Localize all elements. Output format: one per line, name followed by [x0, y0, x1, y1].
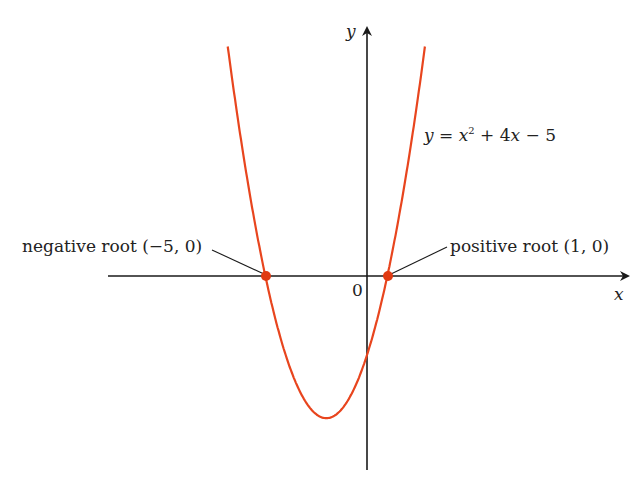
pos-root-point	[383, 271, 393, 281]
origin-label: 0	[352, 280, 363, 300]
equation-label: y = x2 + 4x − 5	[423, 125, 556, 145]
neg-root-point	[261, 271, 271, 281]
pos-root-leader	[391, 247, 447, 274]
parabola-curve	[228, 47, 425, 419]
neg-root-leader	[212, 250, 264, 274]
parabola-diagram: y x 0 y = x2 + 4x − 5 negative root (−5,…	[0, 0, 643, 485]
negative-root-label: negative root (−5, 0)	[22, 236, 202, 256]
x-axis-label: x	[614, 284, 624, 304]
positive-root-label: positive root (1, 0)	[450, 236, 609, 256]
y-axis-label: y	[345, 21, 356, 41]
